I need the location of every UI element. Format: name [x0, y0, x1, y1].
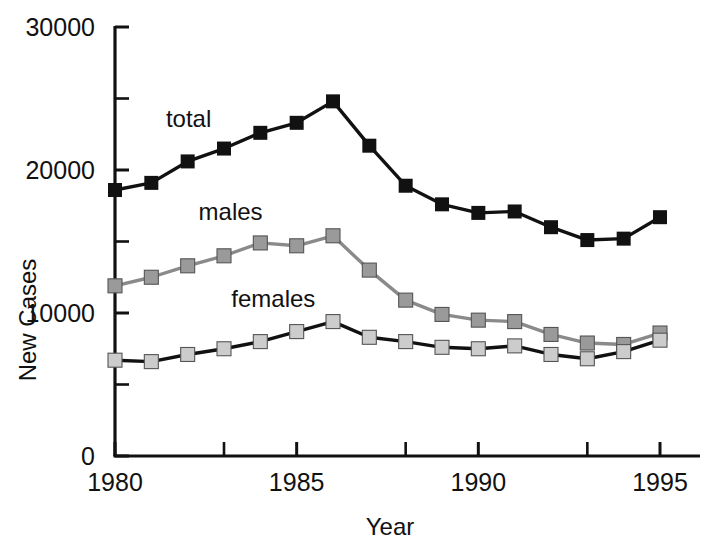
x-tick-label: 1985 [269, 468, 325, 496]
axes: 01000020000300001980198519901995 [25, 13, 700, 496]
data-point-total-1983 [217, 142, 231, 156]
data-point-males-1982 [181, 259, 195, 273]
data-point-males-1988 [399, 293, 413, 307]
chart-container: 01000020000300001980198519901995 totalma… [0, 0, 712, 554]
series-label-total: total [166, 105, 211, 132]
series-annotations: totalmalesfemales [166, 105, 315, 312]
data-point-males-1984 [253, 236, 267, 250]
data-point-total-1984 [253, 126, 267, 140]
data-point-females-1988 [399, 335, 413, 349]
data-point-total-1981 [144, 176, 158, 190]
data-point-females-1991 [508, 339, 522, 353]
data-point-males-1985 [290, 239, 304, 253]
data-point-males-1981 [144, 270, 158, 284]
series-label-females: females [231, 285, 315, 312]
data-point-females-1987 [362, 330, 376, 344]
data-point-total-1986 [326, 94, 340, 108]
data-point-males-1987 [362, 263, 376, 277]
data-point-total-1992 [544, 220, 558, 234]
data-point-males-1980 [108, 279, 122, 293]
x-tick-label: 1980 [87, 468, 143, 496]
data-point-total-1993 [580, 233, 594, 247]
data-point-males-1986 [326, 229, 340, 243]
data-point-females-1982 [181, 347, 195, 361]
x-axis-title: Year [366, 513, 415, 540]
data-point-males-1990 [471, 313, 485, 327]
data-point-females-1992 [544, 347, 558, 361]
x-tick-label: 1990 [451, 468, 507, 496]
y-tick-label: 20000 [25, 156, 95, 184]
data-point-total-1985 [290, 116, 304, 130]
data-point-females-1993 [580, 352, 594, 366]
series-line-males [115, 236, 660, 345]
data-point-females-1985 [290, 325, 304, 339]
data-point-females-1994 [617, 345, 631, 359]
data-point-total-1989 [435, 197, 449, 211]
data-point-total-1987 [362, 139, 376, 153]
data-point-males-1983 [217, 249, 231, 263]
line-chart: 01000020000300001980198519901995 totalma… [0, 0, 712, 554]
data-point-females-1983 [217, 342, 231, 356]
data-point-total-1994 [617, 232, 631, 246]
data-point-females-1995 [653, 333, 667, 347]
data-point-total-1980 [108, 183, 122, 197]
data-point-males-1991 [508, 315, 522, 329]
series-males [108, 229, 667, 352]
data-point-females-1984 [253, 335, 267, 349]
data-point-males-1993 [580, 336, 594, 350]
data-series [108, 94, 667, 368]
series-label-males: males [199, 198, 263, 225]
data-point-total-1982 [181, 154, 195, 168]
y-tick-label: 30000 [25, 13, 95, 41]
data-point-females-1981 [144, 355, 158, 369]
data-point-total-1990 [471, 206, 485, 220]
y-axis-title: New Cases [14, 259, 41, 382]
data-point-total-1991 [508, 204, 522, 218]
x-tick-label: 1995 [632, 468, 688, 496]
data-point-males-1989 [435, 307, 449, 321]
data-point-females-1986 [326, 315, 340, 329]
data-point-total-1988 [399, 179, 413, 193]
data-point-females-1980 [108, 353, 122, 367]
y-tick-label: 0 [81, 442, 95, 470]
data-point-females-1989 [435, 340, 449, 354]
data-point-males-1992 [544, 327, 558, 341]
data-point-total-1995 [653, 210, 667, 224]
data-point-females-1990 [471, 342, 485, 356]
